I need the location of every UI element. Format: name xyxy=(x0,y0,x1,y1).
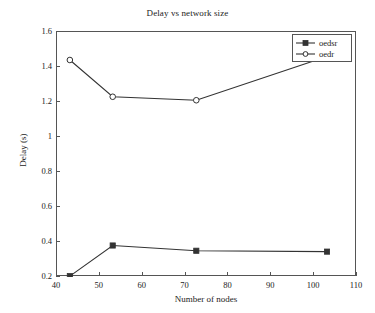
x-tick-mark xyxy=(227,272,228,276)
legend-item-oedsr[interactable]: oedsr xyxy=(295,37,348,48)
legend-marker-open-circle-icon xyxy=(295,49,316,59)
y-tick-label: 1.4 xyxy=(22,61,52,71)
x-tick-label: 100 xyxy=(298,280,328,290)
y-tick-mark xyxy=(56,31,60,32)
data-point-oedsr xyxy=(67,274,72,277)
data-point-oedsr xyxy=(324,249,329,254)
series-line-oedr xyxy=(70,57,327,101)
x-tick-label: 70 xyxy=(170,280,200,290)
chart-legend: oedsr oedr xyxy=(292,34,352,62)
data-point-oedr xyxy=(67,57,73,63)
plot-lines xyxy=(57,32,357,277)
y-tick-mark xyxy=(56,101,60,102)
legend-marker-filled-square-icon xyxy=(295,38,316,48)
y-tick-label: 0.4 xyxy=(22,236,52,246)
y-tick-label: 1 xyxy=(22,131,52,141)
x-tick-mark xyxy=(99,272,100,276)
x-tick-label: 50 xyxy=(84,280,114,290)
data-point-oedr xyxy=(110,94,116,100)
y-tick-mark xyxy=(56,206,60,207)
y-tick-mark xyxy=(56,171,60,172)
x-tick-label: 90 xyxy=(255,280,285,290)
x-tick-label: 110 xyxy=(341,280,371,290)
x-tick-mark xyxy=(356,272,357,276)
legend-label: oedsr xyxy=(319,38,337,48)
y-tick-label: 0.6 xyxy=(22,201,52,211)
y-tick-label: 1.2 xyxy=(22,96,52,106)
y-tick-label: 1.6 xyxy=(22,26,52,36)
data-point-oedr xyxy=(193,97,199,103)
x-tick-label: 40 xyxy=(41,280,71,290)
x-tick-mark xyxy=(270,272,271,276)
y-axis-label: Delay (s) xyxy=(18,110,28,190)
y-tick-mark xyxy=(56,66,60,67)
data-point-oedsr xyxy=(194,248,199,253)
y-tick-mark xyxy=(56,276,60,277)
data-point-oedsr xyxy=(110,243,115,248)
x-tick-mark xyxy=(313,272,314,276)
x-tick-label: 80 xyxy=(212,280,242,290)
x-tick-mark xyxy=(56,272,57,276)
chart-title: Delay vs network size xyxy=(0,8,375,18)
x-tick-mark xyxy=(185,272,186,276)
x-tick-mark xyxy=(142,272,143,276)
x-axis-label: Number of nodes xyxy=(56,294,356,304)
y-tick-label: 0.8 xyxy=(22,166,52,176)
legend-label: oedr xyxy=(319,49,334,59)
x-tick-label: 60 xyxy=(127,280,157,290)
y-tick-mark xyxy=(56,136,60,137)
chart-figure: Delay vs network size Delay (s) 0.20.40.… xyxy=(0,0,375,313)
y-tick-mark xyxy=(56,241,60,242)
plot-area xyxy=(56,31,356,276)
legend-item-oedr[interactable]: oedr xyxy=(295,48,348,59)
